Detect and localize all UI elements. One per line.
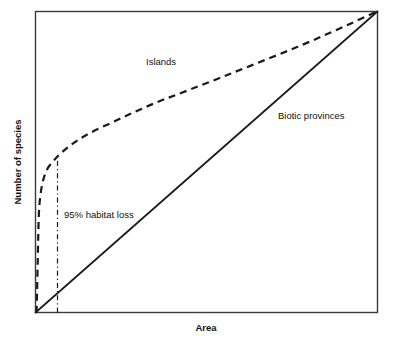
series-label-biotic-provinces: Biotic provinces <box>278 110 345 121</box>
y-axis-title: Number of species <box>12 120 23 205</box>
series-label-islands: Islands <box>146 56 176 67</box>
annotation-habitat-loss: 95% habitat loss <box>64 209 134 220</box>
chart-page: Islands Biotic provinces 95% habitat los… <box>0 0 394 347</box>
species-area-chart: Islands Biotic provinces 95% habitat los… <box>0 0 394 347</box>
x-axis-title: Area <box>195 322 217 333</box>
